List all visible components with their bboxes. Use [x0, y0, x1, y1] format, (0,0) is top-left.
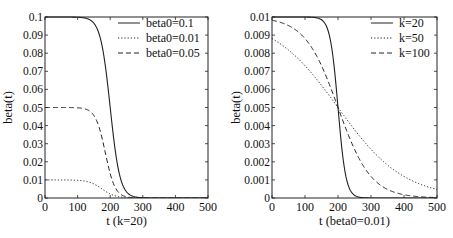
x-axis-label: t (k=20): [106, 214, 147, 228]
x-tick-label: 100: [296, 200, 314, 214]
y-tick-label: 0: [264, 192, 270, 204]
figure: 010020030040050000.010.020.030.040.050.0…: [0, 0, 453, 238]
y-tick-label: 0.05: [23, 102, 43, 114]
y-tick-label: 0.08: [23, 47, 43, 59]
y-tick-label: 0.008: [244, 47, 270, 59]
x-tick-label: 300: [134, 200, 152, 214]
x-tick-label: 200: [329, 200, 347, 214]
x-tick-label: 200: [101, 200, 119, 214]
y-tick-label: 0.06: [23, 83, 43, 95]
y-tick-label: 0.003: [244, 138, 270, 150]
legend-label: beta0=0.01: [146, 31, 200, 45]
y-tick-label: 0.01: [250, 11, 270, 23]
y-tick-label: 0.009: [244, 29, 270, 41]
series-line: [45, 108, 208, 199]
y-tick-label: 0.002: [244, 156, 270, 168]
legend-label: beta0=0.05: [146, 46, 200, 60]
x-tick-label: 300: [362, 200, 380, 214]
y-tick-label: 0.007: [244, 65, 270, 77]
y-tick-label: 0.04: [23, 120, 43, 132]
chart-right: 010020030040050000.0010.0020.0030.0040.0…: [229, 11, 446, 228]
x-tick-label: 500: [428, 200, 446, 214]
series-line: [272, 39, 437, 190]
y-tick-label: 0.006: [244, 83, 270, 95]
y-tick-label: 0.09: [23, 29, 43, 41]
y-tick-label: 0.005: [244, 102, 270, 114]
x-tick-label: 500: [199, 200, 217, 214]
x-tick-label: 100: [69, 200, 87, 214]
x-tick-label: 400: [395, 200, 413, 214]
series-line: [45, 180, 208, 198]
x-tick-label: 400: [166, 200, 184, 214]
chart-left: 010020030040050000.010.020.030.040.050.0…: [1, 11, 217, 228]
y-tick-label: 0.01: [23, 174, 43, 186]
legend-label: k=100: [399, 46, 430, 60]
y-tick-label: 0: [37, 192, 43, 204]
y-tick-label: 0.07: [23, 65, 43, 77]
y-axis-label: beta(t): [229, 91, 243, 124]
legend-label: k=20: [399, 16, 424, 30]
x-axis-label: t (beta0=0.01): [319, 214, 390, 228]
y-tick-label: 0.1: [29, 11, 44, 23]
y-tick-label: 0.03: [23, 138, 43, 150]
legend-label: k=50: [399, 31, 424, 45]
legend-label: beta0=0.1: [146, 16, 194, 30]
y-axis-label: beta(t): [1, 91, 15, 124]
y-tick-label: 0.02: [23, 156, 43, 168]
y-tick-label: 0.004: [244, 120, 270, 132]
y-tick-label: 0.001: [244, 174, 270, 186]
